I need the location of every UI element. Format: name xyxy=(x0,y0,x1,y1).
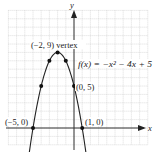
data-point xyxy=(39,84,43,88)
parabola-chart: x y (−2, 9) vertex f(x) = −x² − 4x + 5 (… xyxy=(0,0,153,152)
function-label: f(x) = −x² − 4x + 5 xyxy=(78,59,152,69)
annotations: (−2, 9) vertex f(x) = −x² − 4x + 5 (0, 5… xyxy=(4,40,153,127)
data-point xyxy=(31,126,35,130)
right-root-label: (1, 0) xyxy=(85,117,104,127)
vertex-label: (−2, 9) vertex xyxy=(31,40,78,50)
x-axis-arrow-icon xyxy=(138,125,146,131)
data-point xyxy=(64,59,68,63)
y-intercept-label: (0, 5) xyxy=(76,82,95,92)
y-axis-arrow-icon xyxy=(71,10,77,18)
data-point xyxy=(80,126,84,130)
left-root-label: (−5, 0) xyxy=(5,117,28,127)
x-axis-label: x xyxy=(147,123,152,133)
axes: x y xyxy=(6,0,152,150)
data-point xyxy=(56,50,60,54)
data-point xyxy=(47,59,51,63)
y-axis-label: y xyxy=(69,0,74,10)
